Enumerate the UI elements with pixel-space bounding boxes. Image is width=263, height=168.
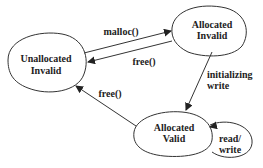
state-allocated-invalid-line1: Allocated — [192, 19, 233, 30]
state-unallocated-invalid-line1: Unallocated — [20, 53, 72, 64]
transition-rw-line2: write — [219, 144, 242, 155]
transition-free-from-allocated-invalid: free() — [88, 41, 172, 68]
transition-read-write-loop: read/ write — [210, 122, 252, 157]
transition-free-2-label: free() — [98, 88, 121, 100]
transition-initializing-write: initializing write — [186, 52, 253, 110]
transition-malloc: malloc() — [84, 26, 171, 53]
state-allocated-invalid: Allocated Invalid — [172, 6, 246, 56]
state-allocated-invalid-line2: Invalid — [197, 30, 228, 41]
transition-free-from-allocated-valid: free() — [76, 86, 136, 126]
state-unallocated-invalid-line2: Invalid — [31, 65, 62, 76]
transition-free-1-label: free() — [132, 56, 155, 68]
state-allocated-valid: Allocated Valid — [134, 112, 212, 157]
transition-rw-line1: read/ — [219, 133, 241, 144]
state-allocated-valid-line2: Valid — [163, 133, 186, 144]
transition-init-line2: write — [207, 80, 230, 91]
state-allocated-valid-line1: Allocated — [154, 122, 195, 133]
state-diagram: Unallocated Invalid Allocated Invalid Al… — [0, 0, 263, 168]
transition-malloc-label: malloc() — [104, 26, 139, 38]
transition-init-line1: initializing — [207, 69, 253, 80]
state-unallocated-invalid: Unallocated Invalid — [8, 33, 86, 92]
